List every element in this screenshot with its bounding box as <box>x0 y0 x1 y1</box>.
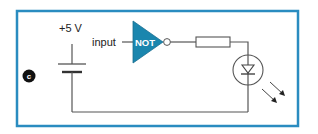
battery-icon <box>58 44 86 112</box>
supply-label: +5 V <box>59 22 83 34</box>
not-gate-icon: NOT <box>133 21 170 63</box>
led-icon <box>233 55 263 112</box>
input-label: input <box>92 36 116 48</box>
resistor-to-led-wire <box>230 42 248 55</box>
circuit-diagram: c +5 V input NOT <box>0 0 318 134</box>
gate-label: NOT <box>135 37 155 48</box>
light-arrows-icon <box>262 82 285 103</box>
panel-badge: c <box>23 70 36 83</box>
panel-label: c <box>27 72 32 81</box>
resistor-icon <box>196 37 230 47</box>
inverter-bubble <box>164 39 171 46</box>
